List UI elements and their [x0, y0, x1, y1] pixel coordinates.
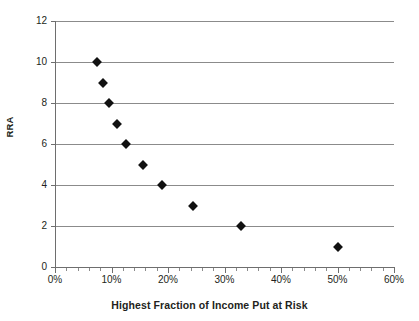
x-tick-label: 0% — [48, 274, 62, 285]
y-tick-mark — [51, 103, 55, 104]
x-minor-tick-mark — [315, 268, 316, 271]
x-minor-tick-mark — [236, 268, 237, 271]
gridline — [55, 226, 394, 227]
x-minor-tick-mark — [349, 268, 350, 271]
x-minor-tick-mark — [270, 268, 271, 271]
y-axis-line — [55, 21, 56, 268]
y-tick-label: 4 — [0, 180, 47, 190]
x-minor-tick-mark — [304, 268, 305, 271]
x-minor-tick-mark — [100, 268, 101, 271]
x-tick-label: 60% — [384, 274, 404, 285]
x-tick-mark — [112, 268, 113, 273]
y-tick-mark — [51, 21, 55, 22]
y-tick-mark — [51, 62, 55, 63]
x-minor-tick-mark — [383, 268, 384, 271]
y-tick-label: 2 — [0, 221, 47, 231]
x-tick-label: 40% — [271, 274, 291, 285]
gridline — [55, 21, 394, 22]
data-point-marker — [188, 201, 198, 211]
x-tick-label: 20% — [158, 274, 178, 285]
data-point-marker — [112, 119, 122, 129]
scatter-chart: 024681012 0%10%20%30%40%50%60% RRA Highe… — [0, 0, 419, 321]
x-minor-tick-mark — [292, 268, 293, 271]
y-tick-label: 6 — [0, 139, 47, 149]
x-minor-tick-mark — [247, 268, 248, 271]
y-tick-mark — [51, 185, 55, 186]
x-minor-tick-mark — [89, 268, 90, 271]
y-tick-label: 0 — [0, 262, 47, 272]
x-minor-tick-mark — [213, 268, 214, 271]
x-minor-tick-mark — [202, 268, 203, 271]
x-minor-tick-mark — [258, 268, 259, 271]
x-tick-label: 10% — [101, 274, 121, 285]
x-minor-tick-mark — [371, 268, 372, 271]
x-minor-tick-mark — [134, 268, 135, 271]
data-point-marker — [98, 78, 108, 88]
data-point-marker — [157, 180, 167, 190]
plot-area — [55, 21, 394, 267]
x-minor-tick-mark — [191, 268, 192, 271]
data-point-marker — [333, 242, 343, 252]
x-tick-mark — [338, 268, 339, 273]
data-point-marker — [104, 98, 114, 108]
gridline — [55, 185, 394, 186]
x-tick-label: 50% — [327, 274, 347, 285]
gridline — [55, 144, 394, 145]
x-tick-mark — [225, 268, 226, 273]
y-tick-label: 10 — [0, 57, 47, 67]
data-point-marker — [121, 139, 131, 149]
y-tick-label: 8 — [0, 98, 47, 108]
x-tick-mark — [168, 268, 169, 273]
y-tick-mark — [51, 144, 55, 145]
x-minor-tick-mark — [360, 268, 361, 271]
data-point-marker — [92, 57, 102, 67]
x-minor-tick-mark — [157, 268, 158, 271]
x-minor-tick-mark — [123, 268, 124, 271]
y-axis-title: RRA — [4, 116, 15, 137]
x-tick-label: 30% — [214, 274, 234, 285]
y-tick-label: 12 — [0, 16, 47, 26]
x-minor-tick-mark — [78, 268, 79, 271]
x-axis-title: Highest Fraction of Income Put at Risk — [0, 299, 419, 311]
x-minor-tick-mark — [66, 268, 67, 271]
data-point-marker — [138, 160, 148, 170]
y-tick-mark — [51, 226, 55, 227]
x-tick-mark — [281, 268, 282, 273]
data-point-marker — [236, 221, 246, 231]
gridline — [55, 62, 394, 63]
x-tick-mark — [55, 268, 56, 273]
x-tick-mark — [394, 268, 395, 273]
x-minor-tick-mark — [179, 268, 180, 271]
x-minor-tick-mark — [326, 268, 327, 271]
x-minor-tick-mark — [145, 268, 146, 271]
